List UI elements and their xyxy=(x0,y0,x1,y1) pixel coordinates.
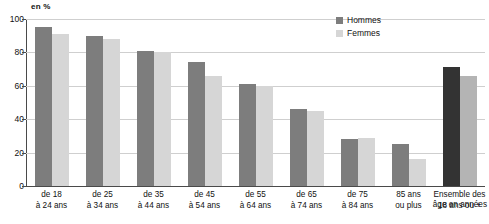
chart-legend: HommesFemmes xyxy=(336,15,381,40)
y-axis-tick-label: 80 xyxy=(2,47,24,57)
bar-hommes xyxy=(290,109,307,186)
bar-hommes xyxy=(86,36,103,186)
bar-group xyxy=(434,19,485,186)
bar-hommes xyxy=(443,67,460,186)
x-axis-title: âge en années xyxy=(399,200,487,211)
y-axis-tick-label: 60 xyxy=(2,81,24,91)
bar-femmes xyxy=(409,159,426,186)
x-axis-line xyxy=(26,186,485,187)
bar-femmes xyxy=(154,52,171,186)
y-axis-tick-label: 40 xyxy=(2,114,24,124)
bar-femmes xyxy=(205,76,222,186)
legend-swatch-femmes xyxy=(336,30,343,37)
bar-chart: en % 020406080100 de 18à 24 ansde 25à 34… xyxy=(0,0,489,224)
bar-hommes xyxy=(35,27,52,186)
bar-group xyxy=(179,19,230,186)
bar-femmes xyxy=(256,86,273,186)
y-axis-unit-label: en % xyxy=(31,2,50,11)
legend-item: Femmes xyxy=(336,28,381,40)
bar-femmes xyxy=(307,111,324,186)
bar-group xyxy=(332,19,383,186)
bar-group xyxy=(281,19,332,186)
bar-group xyxy=(230,19,281,186)
bar-hommes xyxy=(392,144,409,186)
bar-group xyxy=(383,19,434,186)
legend-item: Hommes xyxy=(336,15,381,27)
bar-group xyxy=(77,19,128,186)
bar-hommes xyxy=(239,84,256,186)
y-axis-tick-label: 100 xyxy=(2,14,24,24)
bar-femmes xyxy=(103,39,120,186)
bar-group xyxy=(128,19,179,186)
bar-hommes xyxy=(341,139,358,186)
bar-femmes xyxy=(52,34,69,186)
bar-hommes xyxy=(188,62,205,186)
bar-femmes xyxy=(358,138,375,186)
legend-item-label: Femmes xyxy=(347,28,380,40)
y-axis-tick-label: 20 xyxy=(2,148,24,158)
bar-hommes xyxy=(137,51,154,186)
bar-group xyxy=(26,19,77,186)
x-axis-title-text: âge en années xyxy=(399,200,487,211)
legend-swatch-hommes xyxy=(336,17,343,24)
x-axis-label-line: Ensemble des xyxy=(426,190,489,201)
legend-item-label: Hommes xyxy=(347,15,381,27)
bar-femmes xyxy=(460,76,477,186)
plot-area xyxy=(26,19,485,186)
